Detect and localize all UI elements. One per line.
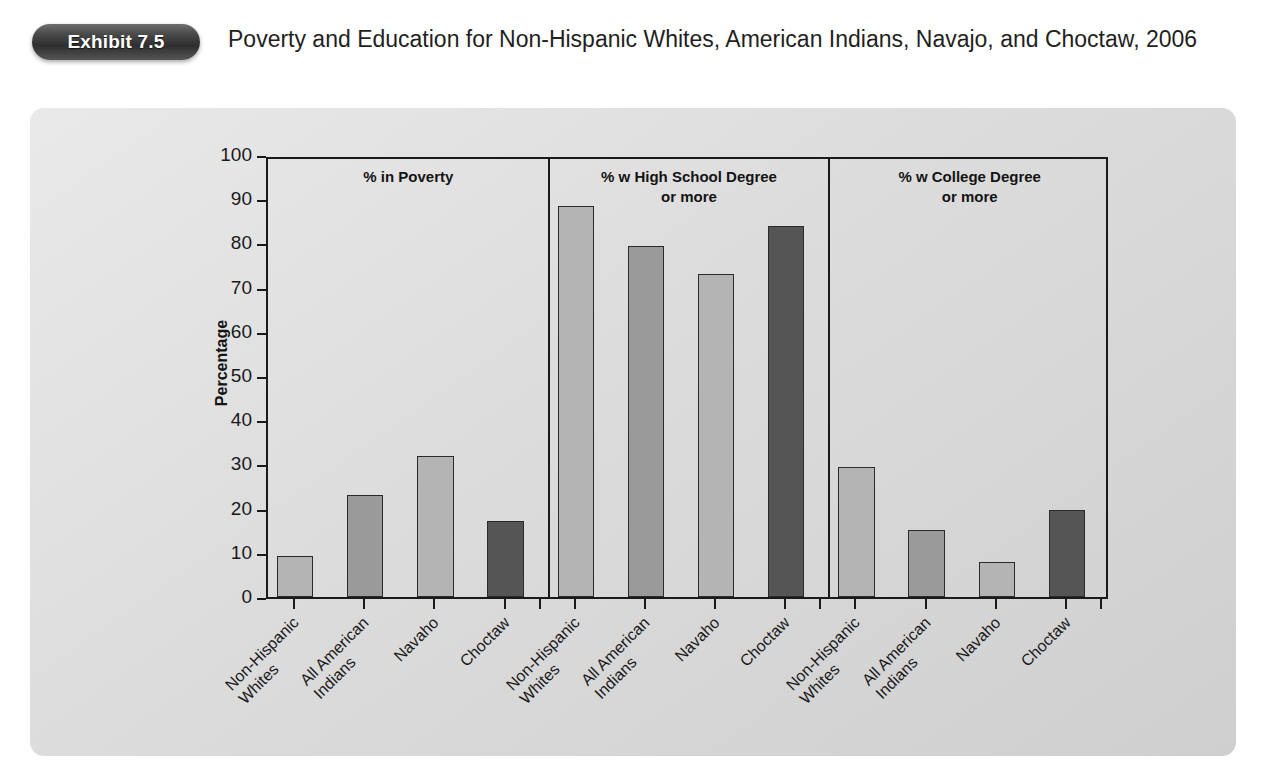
x-axis-tick-label: Navaho: [671, 613, 723, 665]
x-axis-tick-label-line-1: Navaho: [672, 614, 723, 665]
y-axis-tick-mark: [257, 510, 266, 512]
x-axis-panel-tick-mark: [539, 599, 541, 609]
panel-header-line-1: % w College Degree: [829, 167, 1110, 187]
panel-divider: [828, 159, 830, 597]
y-axis-tick-label: 100: [204, 144, 252, 166]
bar: [487, 521, 523, 597]
y-axis-tick-label: 50: [204, 365, 252, 387]
panel-header: % in Poverty: [268, 167, 549, 187]
figure-panel: Percentage 1009080706050403020100 Non-Hi…: [30, 108, 1236, 756]
x-axis-tick-label-line-1: Choctaw: [456, 614, 512, 670]
y-axis-tick-mark: [257, 289, 266, 291]
bar-chart: Percentage 1009080706050403020100 Non-Hi…: [30, 108, 1236, 756]
bar: [558, 206, 594, 597]
x-axis-tick-label-line-1: Choctaw: [1018, 614, 1074, 670]
x-axis-tick-mark: [925, 599, 927, 609]
panel-header-line-1: % w High School Degree: [549, 167, 830, 187]
x-axis-tick-label-line-1: Choctaw: [737, 614, 793, 670]
x-axis-tick-mark: [644, 599, 646, 609]
x-axis-tick-label: Choctaw: [456, 613, 513, 670]
x-axis-panel-tick-mark: [1100, 599, 1102, 609]
x-axis-tick-label: All AmericanIndians: [296, 613, 386, 703]
x-axis-tick-label: Non-HispanicWhites: [782, 613, 877, 708]
y-axis-tick-mark: [257, 598, 266, 600]
y-axis-tick-label: 30: [204, 453, 252, 475]
x-axis-tick-label: Non-HispanicWhites: [502, 613, 597, 708]
bar: [768, 226, 804, 597]
x-axis-tick-label: Navaho: [390, 613, 442, 665]
x-axis-tick-label: Non-HispanicWhites: [221, 613, 316, 708]
exhibit-badge: Exhibit 7.5: [32, 24, 200, 60]
x-axis-tick-mark: [504, 599, 506, 609]
y-axis-tick-mark: [257, 421, 266, 423]
panel-header: % w High School Degreeor more: [549, 167, 830, 207]
x-axis-tick-mark: [995, 599, 997, 609]
y-axis-tick-mark: [257, 200, 266, 202]
panel-divider: [548, 159, 550, 597]
bar: [979, 562, 1015, 597]
y-axis-tick-label: 10: [204, 542, 252, 564]
bar: [347, 495, 383, 597]
x-axis-tick-mark: [363, 599, 365, 609]
panel-header-line-2: or more: [549, 187, 830, 207]
panel-header: % w College Degreeor more: [829, 167, 1110, 207]
x-axis-tick-mark: [1065, 599, 1067, 609]
panel-header-line-2: or more: [829, 187, 1110, 207]
x-axis-tick-mark: [293, 599, 295, 609]
y-axis-tick-mark: [257, 465, 266, 467]
y-axis-tick-label: 0: [204, 586, 252, 608]
x-axis-tick-mark: [574, 599, 576, 609]
y-axis-tick-mark: [257, 244, 266, 246]
y-axis-tick-label: 90: [204, 188, 252, 210]
bar: [908, 530, 944, 597]
y-axis-tick-mark: [257, 554, 266, 556]
x-axis-tick-mark: [784, 599, 786, 609]
y-axis-tick-label: 80: [204, 232, 252, 254]
x-axis-tick-mark: [714, 599, 716, 609]
y-axis-tick-mark: [257, 377, 266, 379]
x-axis-tick-label-line-1: Navaho: [391, 614, 442, 665]
x-axis-tick-mark: [433, 599, 435, 609]
bar: [1049, 510, 1085, 597]
exhibit-header: Exhibit 7.5 Poverty and Education for No…: [0, 0, 1271, 108]
bar: [417, 456, 453, 597]
x-axis-tick-label: Choctaw: [736, 613, 793, 670]
y-axis-tick-mark: [257, 156, 266, 158]
x-axis-tick-label-line-1: Navaho: [952, 614, 1003, 665]
y-axis-tick-label: 70: [204, 277, 252, 299]
x-axis-tick-label: Navaho: [952, 613, 1004, 665]
y-axis-tick-label: 20: [204, 498, 252, 520]
panel-header-line-1: % in Poverty: [268, 167, 549, 187]
page-title: Poverty and Education for Non-Hispanic W…: [228, 24, 1238, 55]
bar: [277, 556, 313, 597]
bar: [838, 467, 874, 597]
x-axis-panel-tick-mark: [819, 599, 821, 609]
bar: [698, 274, 734, 597]
x-axis-tick-mark: [854, 599, 856, 609]
bar: [628, 246, 664, 597]
exhibit-badge-label: Exhibit 7.5: [67, 31, 164, 53]
y-axis-tick-label: 60: [204, 321, 252, 343]
x-axis-tick-label: All AmericanIndians: [858, 613, 948, 703]
x-axis-tick-label: Choctaw: [1017, 613, 1074, 670]
plot-area: % in Poverty% w High School Degreeor mor…: [266, 157, 1108, 599]
y-axis-tick-label: 40: [204, 409, 252, 431]
y-axis-tick-mark: [257, 333, 266, 335]
x-axis-tick-label: All AmericanIndians: [577, 613, 667, 703]
